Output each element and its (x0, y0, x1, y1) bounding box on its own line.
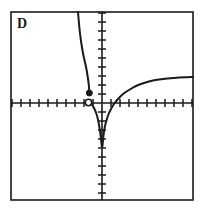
page-title: D (17, 17, 27, 31)
endpoint-markers (85, 90, 92, 106)
marker-open-dot (85, 99, 91, 105)
curve-series (78, 12, 193, 146)
plot-canvas (0, 0, 202, 212)
marker-closed-dot (86, 90, 92, 96)
figure-panel: D (0, 0, 202, 212)
curve-left-branch (78, 12, 89, 93)
curve-right-branch (103, 77, 194, 146)
